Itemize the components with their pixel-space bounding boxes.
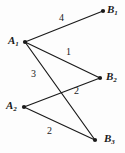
edge-a1-b1 bbox=[25, 11, 103, 42]
node-dot-b3 bbox=[93, 138, 97, 142]
edge-weight-a1-b3: 3 bbox=[31, 69, 36, 79]
node-dot-b2 bbox=[98, 76, 102, 80]
edge-a1-b2 bbox=[25, 42, 100, 78]
node-label-b2: B2 bbox=[106, 71, 117, 82]
node-label-b1: B1 bbox=[107, 4, 118, 15]
node-label-subscript: 2 bbox=[113, 76, 117, 84]
node-dot-a2 bbox=[22, 105, 26, 109]
edge-a2-b2 bbox=[24, 78, 100, 107]
node-dot-b1 bbox=[101, 9, 105, 13]
node-label-subscript: 1 bbox=[15, 40, 19, 48]
edge-a2-b3 bbox=[24, 107, 95, 140]
node-label-b3: B3 bbox=[104, 133, 115, 144]
node-label-a2: A2 bbox=[6, 100, 17, 111]
graph-figure: A1A2B1B2B3 41322 bbox=[0, 0, 125, 153]
edge-weight-a1-b2: 1 bbox=[66, 47, 71, 57]
edge-weight-a2-b2: 2 bbox=[74, 86, 79, 96]
node-label-subscript: 1 bbox=[114, 9, 118, 17]
node-label-a1: A1 bbox=[8, 35, 19, 46]
node-label-subscript: 2 bbox=[13, 105, 17, 113]
edge-weight-a2-b3: 2 bbox=[47, 126, 52, 136]
node-label-subscript: 3 bbox=[111, 138, 115, 146]
edge-weight-a1-b1: 4 bbox=[59, 13, 64, 23]
node-dot-a1 bbox=[23, 40, 27, 44]
edge-a1-b3 bbox=[25, 42, 95, 140]
